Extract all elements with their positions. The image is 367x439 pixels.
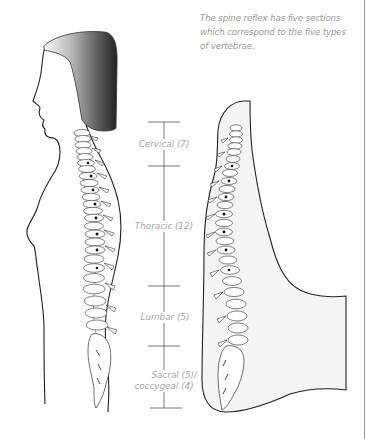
- hair: [44, 32, 117, 131]
- label-lumbar: Lumbar (5): [137, 312, 193, 323]
- section-scale: [148, 122, 182, 408]
- foot-figure: [202, 101, 346, 412]
- label-thoracic: Thoracic (12): [129, 221, 199, 232]
- label-sacral-line-2: coccygeal (4): [131, 381, 197, 392]
- label-sacral-line-1: Sacral (5)/: [131, 370, 197, 381]
- woman-profile-figure: [27, 32, 121, 412]
- vertebrae-left: [74, 130, 108, 331]
- label-sacral: Sacral (5)/ coccygeal (4): [131, 370, 197, 392]
- spine-left: [74, 130, 117, 409]
- body-outline: [27, 50, 60, 404]
- label-cervical: Cervical (7): [133, 139, 195, 150]
- sacrum-left: [88, 334, 111, 408]
